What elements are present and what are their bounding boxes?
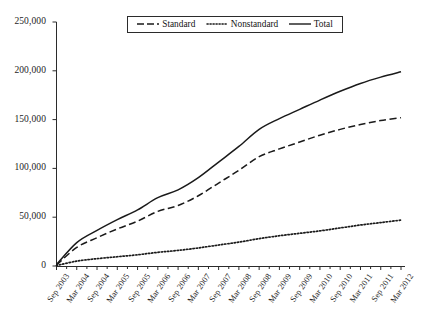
data-series-group — [57, 72, 402, 266]
legend-label-total: Total — [314, 20, 333, 29]
y-axis-ticks — [53, 22, 57, 266]
series-line-nonstandard — [57, 220, 402, 265]
legend-label-nonstandard: Nonstandard — [231, 20, 279, 29]
y-axis-tick-label: 200,000 — [0, 65, 46, 75]
dashed-line-icon — [137, 20, 159, 28]
legend-item-standard: Standard — [137, 20, 195, 29]
series-line-total — [57, 72, 402, 265]
chart-legend: Standard Nonstandard Total — [127, 16, 343, 33]
y-axis-tick-label: 250,000 — [0, 16, 46, 26]
dotted-line-icon — [206, 20, 228, 28]
y-axis-tick-label: 150,000 — [0, 114, 46, 124]
y-axis-tick-label: 0 — [0, 260, 46, 270]
axes — [57, 22, 406, 267]
legend-label-standard: Standard — [162, 20, 195, 29]
y-axis-tick-label: 50,000 — [0, 211, 46, 221]
legend-item-nonstandard: Nonstandard — [206, 20, 279, 29]
legend-item-total: Total — [289, 20, 333, 29]
y-axis-tick-label: 100,000 — [0, 162, 46, 172]
line-chart: 050,000100,000150,000200,000250,000 Sep … — [0, 0, 423, 329]
solid-line-icon — [289, 20, 311, 28]
